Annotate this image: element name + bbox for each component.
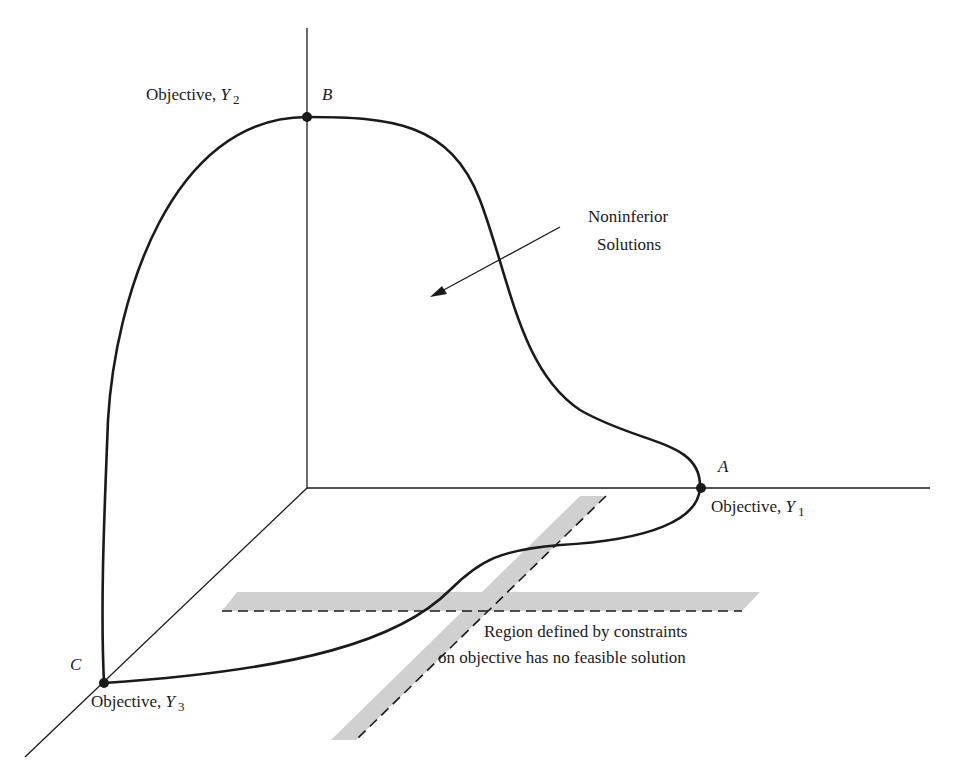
point-c-label: C [70, 655, 82, 674]
noninferior-arrow [430, 227, 560, 297]
axis-y3-diagonal [25, 488, 307, 757]
point-b-label: B [322, 85, 333, 104]
noninferior-label-line2: Solutions [597, 235, 661, 254]
noninferior-solutions-diagram: B A C Objective, Y2 Objective, Y1 Object… [0, 0, 958, 784]
point-b-marker [302, 112, 312, 122]
diagonal-constraint-band [331, 496, 606, 740]
axis-y1-label: Objective, Y1 [711, 497, 805, 519]
region-label-line2: on objective has no feasible solution [438, 648, 686, 667]
point-a-marker [696, 483, 706, 493]
point-a-label: A [717, 457, 729, 476]
noninferior-label-line1: Noninferior [588, 207, 669, 226]
axis-y2-label: Objective, Y2 [146, 85, 240, 107]
axis-y3-label: Objective, Y3 [91, 692, 185, 714]
region-label-line1: Region defined by constraints [484, 622, 688, 641]
arrowhead-icon [430, 286, 447, 297]
point-c-marker [99, 678, 109, 688]
infeasible-region [222, 496, 760, 740]
